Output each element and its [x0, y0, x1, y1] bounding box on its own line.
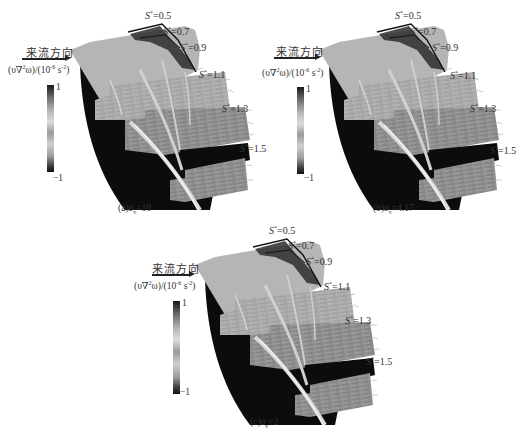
colorbar	[47, 85, 54, 172]
section-label-1.1: S*=1.1	[324, 281, 350, 292]
section-label-0.7: S*=0.7	[288, 240, 314, 251]
colorbar-quantity-label: (υ∇2ω)/(10-6 s-2)	[262, 67, 324, 78]
section-label-0.9: S*=0.9	[180, 42, 206, 53]
section-label-1.5: S*=1.5	[490, 145, 516, 156]
flow-direction-arrow	[152, 274, 190, 276]
colorbar-min-label: −1	[304, 173, 314, 183]
colorbar-quantity-label: (υ∇2ω)/(10-6 s-2)	[134, 280, 196, 291]
colorbar-min-label: −1	[180, 387, 190, 397]
section-label-0.7: S*=0.7	[410, 26, 436, 37]
section-label-1.1: S*=1.1	[199, 69, 225, 80]
panel-caption: (c)σv=2	[250, 417, 278, 429]
section-label-0.5: S*=0.5	[395, 10, 421, 21]
colorbar-max-label: 1	[56, 82, 61, 92]
panel-caption: (b)σv=4.17	[373, 203, 414, 215]
panel-c: 来流方向 (υ∇2ω)/(10-6 s-2) 1 −1 S*=0.5 S*=0.…	[100, 215, 430, 431]
section-label-0.9: S*=0.9	[306, 256, 332, 267]
panel-b: 来流方向 (υ∇2ω)/(10-6 s-2) 1 −1 S*=0.5 S*=0.…	[264, 0, 528, 215]
section-label-1.3: S*=1.3	[345, 315, 371, 326]
section-label-0.5: S*=0.5	[145, 10, 171, 21]
panel-a: 来流方向 (υ∇2ω)/(10-6 s-2) 1 −1 S*=0.5 S*=0.…	[0, 0, 264, 215]
flow-direction-arrow	[274, 57, 316, 59]
section-label-0.9: S*=0.9	[432, 42, 458, 53]
colorbar-max-label: 1	[182, 298, 187, 308]
section-label-1.5: S*=1.5	[240, 143, 266, 154]
section-label-0.5: S*=0.5	[269, 225, 295, 236]
section-label-1.3: S*=1.3	[470, 103, 496, 114]
colorbar-max-label: 1	[306, 84, 311, 94]
colorbar-min-label: −1	[53, 173, 63, 183]
section-label-1.3: S*=1.3	[222, 103, 248, 114]
colorbar-quantity-label: (υ∇2ω)/(10-6 s-2)	[8, 64, 70, 75]
flow-direction-arrow	[22, 58, 66, 60]
panel-caption: (a)σv=10	[118, 203, 151, 215]
section-label-1.5: S*=1.5	[366, 356, 392, 367]
section-label-1.1: S*=1.1	[450, 70, 476, 81]
colorbar	[173, 301, 180, 394]
section-label-0.7: S*=0.7	[163, 26, 189, 37]
colorbar	[297, 87, 304, 174]
